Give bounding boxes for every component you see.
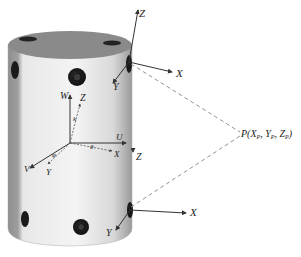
sensor-left-bottom [21,211,29,227]
sensor-front-top-inner [73,73,81,81]
sensor-front-bottom-inner [78,224,85,231]
top-hole-right [103,41,121,46]
sensor-left-top [11,61,19,79]
projection-lines [131,64,240,207]
angle-phi-label: φ [52,151,56,159]
top-z-label: Z [139,7,146,19]
diagram-canvas: Z X Y W Z U X V Y k θ φ Z X Y P(XP, YP, [0,0,301,257]
center-u-label: U [116,132,123,142]
angle-theta-label: θ [90,143,94,151]
side-frame: Z [133,148,142,162]
side-z-label: Z [136,151,142,162]
bottom-x-label: X [189,206,198,218]
top-hole-left [19,37,37,42]
center-x-label: X [113,149,120,159]
center-z-label: Z [80,92,86,103]
point-p-label: P(XP, YP, ZP) [240,128,293,140]
top-x-label: X [175,67,184,79]
